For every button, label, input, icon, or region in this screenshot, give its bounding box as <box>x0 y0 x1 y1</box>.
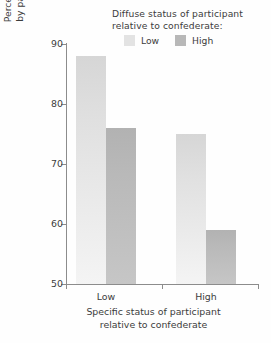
bar-low-high <box>106 128 136 284</box>
legend-title-line-1: Diffuse status of participant <box>112 8 267 20</box>
y-tick-label: 70 <box>51 158 63 169</box>
y-axis-title: Percentage yielding responses by partici… <box>0 0 28 72</box>
x-axis-title: Specific status of participant relative … <box>46 305 261 331</box>
bar-high-high <box>206 230 236 284</box>
bar-high-low <box>176 134 206 284</box>
x-tick-mark <box>66 284 67 289</box>
y-axis-line <box>66 43 67 284</box>
x-tick-mark <box>162 284 163 289</box>
x-tick-label-high: High <box>195 291 217 302</box>
y-tick-label: 90 <box>51 38 63 49</box>
x-tick-label-low: Low <box>97 291 115 302</box>
y-tick-label: 60 <box>51 218 63 229</box>
x-tick-mark <box>258 284 259 289</box>
x-axis-title-line-1: Specific status of participant <box>46 305 261 318</box>
y-tick-label: 50 <box>51 278 63 289</box>
y-tick-label: 80 <box>51 98 63 109</box>
x-axis-title-line-2: relative to confederate <box>46 318 261 331</box>
y-axis-title-line-1: Percentage yielding responses <box>2 0 15 22</box>
y-axis-title-line-2: by participants to confederate <box>14 0 27 22</box>
plot-area: 5060708090 LowHigh <box>66 44 258 284</box>
bar-chart-figure: Diffuse status of participant relative t… <box>0 0 271 343</box>
bar-low-low <box>76 56 106 284</box>
legend-title-line-2: relative to confederate: <box>112 20 267 32</box>
chart-legend: Diffuse status of participant relative t… <box>112 8 267 46</box>
